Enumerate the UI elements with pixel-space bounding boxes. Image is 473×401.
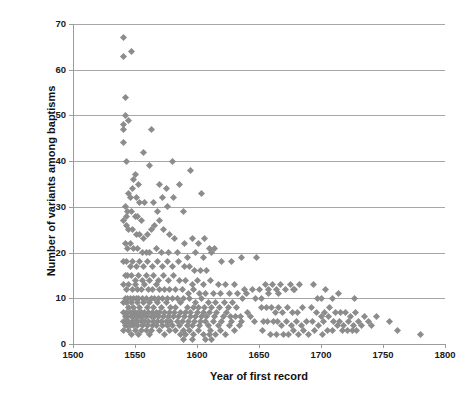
data-point <box>170 194 177 201</box>
y-tick-mark-60 <box>69 70 73 71</box>
x-tick-label-1600: 1600 <box>167 350 227 360</box>
data-point <box>156 217 163 224</box>
data-point <box>417 331 424 338</box>
data-point <box>148 126 155 133</box>
data-point <box>165 276 172 283</box>
data-point <box>210 290 217 297</box>
data-point <box>373 313 380 320</box>
data-point <box>128 48 135 55</box>
x-tick-label-1700: 1700 <box>291 350 351 360</box>
data-point <box>305 331 312 338</box>
data-point <box>176 180 183 187</box>
gridline-y-60 <box>73 70 445 71</box>
plot-area <box>73 24 445 344</box>
data-point <box>326 304 333 311</box>
data-point <box>181 240 188 247</box>
data-point <box>335 290 342 297</box>
data-point <box>281 286 288 293</box>
gridline-y-20 <box>73 253 445 254</box>
data-point <box>180 208 187 215</box>
data-point <box>308 304 315 311</box>
x-tick-label-1650: 1650 <box>229 350 289 360</box>
data-point <box>154 208 161 215</box>
data-point <box>352 308 359 315</box>
data-point <box>309 318 316 325</box>
data-point <box>192 249 199 256</box>
y-axis-title: Number of variants among baptisms <box>45 21 57 341</box>
data-point <box>351 295 358 302</box>
data-point <box>174 249 181 256</box>
data-point <box>164 203 171 210</box>
data-point <box>238 254 245 261</box>
x-tick-label-1550: 1550 <box>105 350 165 360</box>
data-point <box>159 263 166 270</box>
data-point <box>156 180 163 187</box>
data-point <box>319 331 326 338</box>
x-tick-mark-1500 <box>73 344 74 348</box>
data-point <box>170 272 177 279</box>
gridline-y-30 <box>73 207 445 208</box>
data-point <box>231 281 238 288</box>
data-point <box>265 290 272 297</box>
data-point <box>138 217 145 224</box>
x-tick-label-1750: 1750 <box>353 350 413 360</box>
data-point <box>175 258 182 265</box>
x-tick-label-1800: 1800 <box>415 350 473 360</box>
data-point <box>255 286 262 293</box>
x-tick-label-1500: 1500 <box>43 350 103 360</box>
data-point <box>135 180 142 187</box>
data-point <box>146 162 153 169</box>
data-point <box>140 148 147 155</box>
data-point <box>273 331 280 338</box>
data-point <box>150 199 157 206</box>
data-point <box>128 331 135 338</box>
data-point <box>253 254 260 261</box>
data-point <box>120 52 127 59</box>
data-point <box>368 322 375 329</box>
data-point <box>394 327 401 334</box>
data-point <box>198 190 205 197</box>
data-point <box>165 249 172 256</box>
x-tick-mark-1750 <box>383 344 384 348</box>
data-point <box>184 254 191 261</box>
data-point <box>259 327 266 334</box>
x-tick-mark-1650 <box>259 344 260 348</box>
data-point <box>149 263 156 270</box>
x-tick-mark-1550 <box>135 344 136 348</box>
data-point <box>226 290 233 297</box>
data-point <box>120 126 127 133</box>
data-point <box>233 304 240 311</box>
scatter-chart: 010203040506070 150015501600165017001750… <box>0 0 473 401</box>
gridline-y-70 <box>73 24 445 25</box>
x-axis-title: Year of first record <box>73 370 445 382</box>
data-point <box>322 286 329 293</box>
data-point <box>187 167 194 174</box>
data-point <box>157 249 164 256</box>
data-point <box>299 304 306 311</box>
data-point <box>122 94 129 101</box>
y-tick-mark-30 <box>69 207 73 208</box>
data-point <box>195 240 202 247</box>
data-point <box>252 295 259 302</box>
data-point <box>215 281 222 288</box>
data-point <box>310 281 317 288</box>
data-point <box>169 263 176 270</box>
data-point <box>222 331 229 338</box>
data-point <box>275 290 282 297</box>
data-point <box>125 116 132 123</box>
data-point <box>120 139 127 146</box>
data-point <box>171 235 178 242</box>
data-point <box>358 322 365 329</box>
y-tick-mark-70 <box>69 24 73 25</box>
data-point <box>296 281 303 288</box>
data-point <box>123 158 130 165</box>
y-tick-mark-20 <box>69 253 73 254</box>
data-point <box>218 258 225 265</box>
data-point <box>120 34 127 41</box>
data-point <box>188 235 195 242</box>
data-point <box>207 276 214 283</box>
data-point <box>169 158 176 165</box>
data-point <box>217 290 224 297</box>
data-point <box>179 286 186 293</box>
data-point <box>329 295 336 302</box>
